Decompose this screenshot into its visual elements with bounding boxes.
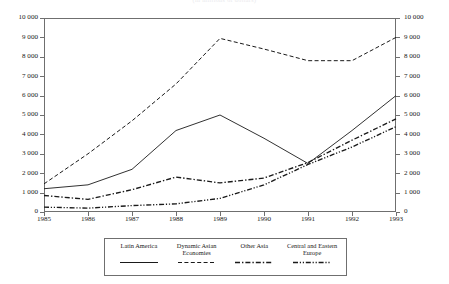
x-tick-label-1992: 1992: [345, 216, 359, 223]
y-tick-label-right-9000: 9 000: [404, 34, 420, 41]
y-tick-label-left-10000: 10 000: [18, 14, 38, 21]
x-tick-label-1987: 1987: [125, 216, 139, 223]
x-tick-label-1991: 1991: [301, 216, 315, 223]
y-tick-left-7000: [40, 76, 44, 77]
y-tick-label-right-6000: 6 000: [404, 92, 420, 99]
y-tick-label-right-5000: 5 000: [404, 111, 420, 118]
y-tick-left-1000: [40, 193, 44, 194]
legend-item-dynamic-asian-economies[interactable]: Dynamic Asian Economies: [168, 242, 226, 266]
legend-label: Central and Eastern Europe: [283, 242, 341, 257]
y-tick-label-right-1000: 1 000: [404, 189, 420, 196]
y-tick-left-3000: [40, 154, 44, 155]
y-tick-label-left-7000: 7 000: [22, 73, 38, 80]
series-line-latin-america: [44, 96, 396, 189]
legend-key-latin-america: [118, 259, 160, 266]
y-tick-label-right-7000: 7 000: [404, 73, 420, 80]
y-tick-left-5000: [40, 115, 44, 116]
x-tick-label-1988: 1988: [169, 216, 183, 223]
y-tick-left-4000: [40, 134, 44, 135]
y-tick-label-right-3000: 3 000: [404, 150, 420, 157]
y-tick-label-right-10000: 10 000: [404, 14, 424, 21]
x-tick-label-1985: 1985: [37, 216, 51, 223]
y-tick-label-left-1000: 1 000: [22, 189, 38, 196]
y-tick-label-right-4000: 4 000: [404, 131, 420, 138]
chart-root: (in millions of dollars) 001 0001 0002 0…: [0, 0, 449, 284]
x-tick-label-1989: 1989: [213, 216, 227, 223]
y-tick-label-right-2000: 2 000: [404, 170, 420, 177]
y-tick-right-7000: [396, 76, 400, 77]
y-tick-right-8000: [396, 57, 400, 58]
legend-label: Latin America: [121, 242, 158, 257]
legend-label: Dynamic Asian Economies: [168, 242, 226, 257]
legend-key-dynamic-asian-economies: [176, 259, 218, 266]
x-tick-label-1986: 1986: [81, 216, 95, 223]
series-line-central-and-eastern-europe: [44, 127, 396, 208]
y-tick-left-6000: [40, 96, 44, 97]
series-layer: [44, 18, 396, 212]
y-tick-label-right-8000: 8 000: [404, 53, 420, 60]
legend-item-latin-america[interactable]: Latin America: [110, 242, 168, 266]
legend-key-other-asia: [233, 259, 275, 266]
y-tick-label-left-6000: 6 000: [22, 92, 38, 99]
y-tick-right-1000: [396, 193, 400, 194]
y-tick-label-left-4000: 4 000: [22, 131, 38, 138]
y-tick-label-left-8000: 8 000: [22, 53, 38, 60]
y-tick-right-10000: [396, 18, 400, 19]
y-tick-right-5000: [396, 115, 400, 116]
legend-item-other-asia[interactable]: Other Asia: [226, 242, 284, 266]
y-tick-left-10000: [40, 18, 44, 19]
y-tick-right-2000: [396, 173, 400, 174]
legend-label: Other Asia: [241, 242, 269, 257]
series-line-dynamic-asian-economies: [44, 37, 396, 183]
series-line-other-asia: [44, 119, 396, 200]
x-tick-label-1993: 1993: [389, 216, 403, 223]
y-tick-label-left-9000: 9 000: [22, 34, 38, 41]
y-tick-label-left-3000: 3 000: [22, 150, 38, 157]
y-tick-right-4000: [396, 134, 400, 135]
y-tick-label-right-0: 0: [404, 208, 408, 215]
y-tick-label-left-5000: 5 000: [22, 111, 38, 118]
legend-key-central-and-eastern-europe: [291, 259, 333, 266]
y-tick-right-9000: [396, 37, 400, 38]
y-tick-left-2000: [40, 173, 44, 174]
legend: Latin AmericaDynamic Asian EconomiesOthe…: [104, 238, 347, 276]
chart-title: (in millions of dollars): [0, 0, 449, 3]
y-tick-label-left-2000: 2 000: [22, 170, 38, 177]
legend-item-central-and-eastern-europe[interactable]: Central and Eastern Europe: [283, 242, 341, 266]
y-tick-left-9000: [40, 37, 44, 38]
y-tick-right-3000: [396, 154, 400, 155]
y-tick-left-8000: [40, 57, 44, 58]
y-tick-right-6000: [396, 96, 400, 97]
x-tick-label-1990: 1990: [257, 216, 271, 223]
